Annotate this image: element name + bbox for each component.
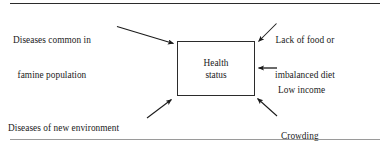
figure-canvas: Diseases common in famine population Lac… xyxy=(0,0,386,147)
health-status-line1: Health xyxy=(204,57,229,69)
factor-label-famine-line2: famine population xyxy=(13,70,91,82)
factor-label-crowding-line1: Crowding xyxy=(281,131,319,143)
factor-label-migrating-line1: Diseases of new environment xyxy=(8,123,119,135)
arrow-famine-to-health xyxy=(117,27,174,44)
arrow-food-to-health xyxy=(259,24,277,42)
factor-label-food-line1: Lack of food or xyxy=(275,35,335,47)
factor-label-income-line1: Low income xyxy=(278,85,325,97)
factor-label-famine-line1: Diseases common in xyxy=(13,35,91,47)
arrow-migrating-to-health xyxy=(147,100,172,119)
factor-label-famine: Diseases common in famine population xyxy=(13,12,91,105)
top-divider-rule xyxy=(10,3,380,4)
health-status-line2: status xyxy=(205,69,226,81)
factor-label-crowding: Crowding xyxy=(281,108,319,147)
health-status-box: Health status xyxy=(177,41,255,96)
bottom-divider-rule xyxy=(10,139,380,140)
